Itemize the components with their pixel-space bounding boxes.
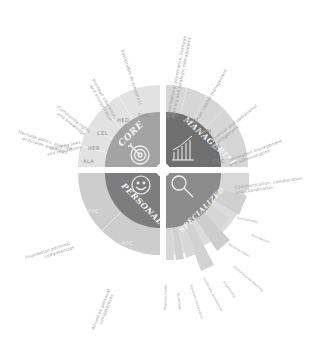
code-fpc: FPC xyxy=(88,208,99,214)
competency-wheel: CORE MANAGERIAL PERSONAL SPECIALIZED ALA… xyxy=(0,0,329,348)
svg-text:Museology: Museology xyxy=(176,293,182,311)
svg-text:Architecture: Architecture xyxy=(251,233,271,244)
svg-text:Community rightsand knowledge: Community rightsand knowledge xyxy=(53,105,91,138)
code-ala: ALA xyxy=(83,158,94,164)
code-apc: APC xyxy=(122,240,133,246)
svg-text:Regional studies: Regional studies xyxy=(163,283,168,310)
code-fom: FOM xyxy=(199,128,212,134)
svg-text:Building trades: Building trades xyxy=(228,242,251,258)
svg-text:Advanced personalcompetencies: Advanced personalcompetencies xyxy=(90,288,116,332)
svg-text:Engineering: Engineering xyxy=(222,280,236,298)
svg-text:Environmental planning: Environmental planning xyxy=(232,265,264,293)
code-hed: HED xyxy=(117,117,129,123)
personal-labels: Foundation personalcompetencies Advanced… xyxy=(25,240,116,332)
code-her: HER xyxy=(88,145,100,151)
code-ccc: CCC xyxy=(213,158,225,164)
svg-text:Foundation personalcompetencie: Foundation personalcompetencies xyxy=(25,240,75,265)
svg-text:Anthropology: Anthropology xyxy=(237,216,259,224)
code-svs: SVS xyxy=(138,112,149,118)
svg-text:Landscape architecture: Landscape architecture xyxy=(202,277,223,312)
svg-text:Materials conservation: Materials conservation xyxy=(189,284,204,320)
code-cel: CEL xyxy=(97,130,108,136)
